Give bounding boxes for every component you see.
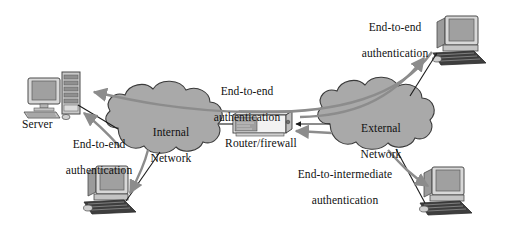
annotation-end-to-intermediate: End-to-intermediate authentication [281, 155, 409, 219]
annotation-server-end-to-end: End-to-end authentication [49, 125, 149, 189]
annotation-end-to-intermediate-line1: End-to-intermediate [281, 168, 409, 181]
annotation-center-end-to-end-line1: End-to-end [192, 85, 302, 98]
annotation-server-end-to-end-line2: authentication [49, 164, 149, 177]
device-server [24, 72, 80, 120]
annotation-center-end-to-end: End-to-end authentication [192, 72, 302, 136]
annotation-server-end-to-end-line1: End-to-end [49, 138, 149, 151]
cloud-label-external-line1: External [350, 122, 412, 135]
device-external-workstation-bottom [420, 167, 473, 215]
cloud-label-internal-line2: Network [140, 152, 202, 165]
network-authentication-diagram: Internal Network External Network Server… [0, 0, 510, 225]
annotation-top-right-end-to-end-line2: authentication [340, 47, 450, 60]
annotation-top-right-end-to-end-line1: End-to-end [340, 21, 450, 34]
annotation-end-to-intermediate-line2: authentication [281, 194, 409, 207]
annotation-top-right-end-to-end: End-to-end authentication [340, 8, 450, 72]
annotation-center-end-to-end-line2: authentication [192, 111, 302, 124]
device-label-router-firewall: Router/firewall [222, 137, 300, 150]
